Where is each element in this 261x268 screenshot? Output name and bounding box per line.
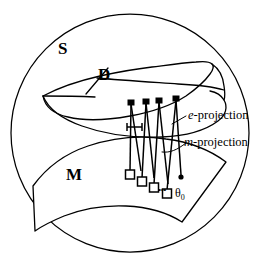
label-ambient-space-S: S: [58, 39, 67, 58]
connector-1-top-node: [128, 100, 134, 105]
label-manifold-D: D: [98, 65, 110, 84]
manifold-M-surface: [33, 137, 226, 231]
label-manifold-M: M: [66, 165, 82, 184]
connector-2-bottom-node: [138, 177, 147, 186]
connector-1-bottom-node: [126, 170, 135, 179]
projection-diagram: S D M e-projection m-projection θ0 •••: [0, 0, 261, 268]
connector-1-line: [130, 104, 131, 171]
label-m-projection: m-projection: [184, 135, 249, 149]
label-e-projection-suffix: -projection: [194, 108, 250, 122]
lower-manifold-M: [33, 137, 226, 231]
label-e-projection: e-projection: [188, 108, 249, 122]
theta-zero-point: [178, 174, 183, 179]
figure-container: S D M e-projection m-projection θ0 •••: [0, 0, 261, 268]
connector-3-top-node: [156, 98, 162, 103]
label-m-projection-suffix: -projection: [193, 135, 249, 149]
connector-2-top-node: [143, 99, 149, 104]
label-ellipsis-dots: •••: [158, 185, 166, 195]
label-m-projection-symbol: m: [184, 135, 193, 149]
connector-4-top-node: [173, 96, 179, 101]
label-theta-subscript: 0: [181, 193, 185, 202]
